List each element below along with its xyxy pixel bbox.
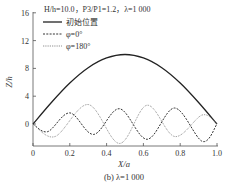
y-tick-label: 4 (25, 92, 29, 101)
axes (33, 12, 218, 146)
series-line-0 (33, 55, 217, 125)
x-tick-label: 0.2 (65, 149, 75, 158)
figure-caption: (b) λ=1 000 (104, 172, 144, 182)
y-tick-label: 8 (25, 64, 29, 73)
y-tick-label: 0 (25, 120, 29, 129)
x-tick-label: 0.6 (138, 149, 148, 158)
legend-title: H/h=10.0，P3/P1=1.2，λ=1 000 (44, 5, 151, 14)
x-tick-label: 0 (31, 149, 35, 158)
x-axis-label: X/a (117, 159, 130, 169)
plot-area (33, 55, 217, 144)
y-tick-label: 12 (21, 37, 29, 46)
x-axis-ticks: 00.20.40.60.81.0 (31, 143, 222, 158)
y-axis-label: Z/h (4, 76, 14, 87)
legend-label-phi180: φ=180° (66, 42, 90, 51)
x-tick-label: 0.4 (102, 149, 112, 158)
chart: 0481216 00.20.40.60.81.0 H/h=10.0，P3/P1=… (0, 0, 225, 191)
x-tick-label: 0.8 (175, 149, 185, 158)
legend-label-phi0: φ=0° (66, 30, 82, 39)
legend: H/h=10.0，P3/P1=1.2，λ=1 000 初始位置 φ=0° φ=1… (43, 5, 151, 51)
series-line-1 (33, 108, 217, 142)
x-tick-label: 1.0 (212, 149, 222, 158)
y-tick-label: 16 (21, 9, 29, 18)
legend-label-initial: 初始位置 (66, 17, 98, 27)
y-axis-ticks: 0481216 (21, 9, 36, 129)
